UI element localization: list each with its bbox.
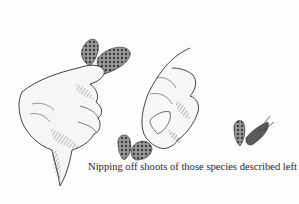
illustration-canvas: Nipping off shoots of those species desc…: [0, 0, 299, 204]
shoot-mid-2: [131, 141, 152, 160]
shoot-left-1: [82, 39, 99, 66]
illustration-caption: Nipping off shoots of those species desc…: [88, 161, 293, 172]
nipped-shoots: [234, 116, 274, 146]
shoot-mid-1: [118, 135, 131, 160]
right-hand: [118, 48, 199, 160]
hand-drawing-illustration: [0, 0, 299, 204]
